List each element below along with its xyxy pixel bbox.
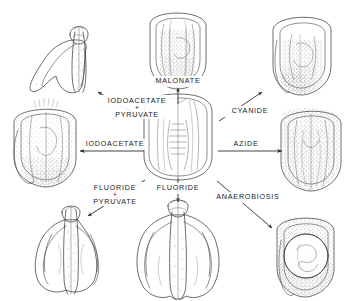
embryo-iodoacetate-pyruvate bbox=[30, 27, 88, 93]
label-fluoride: FLUORIDE bbox=[150, 183, 206, 194]
label-iodoacetate-pyruvate-line2: PYRUVATE bbox=[115, 110, 159, 119]
label-azide: AZIDE bbox=[228, 139, 264, 150]
label-azide-text: AZIDE bbox=[234, 139, 259, 148]
embryo-cyanide bbox=[273, 17, 331, 96]
label-iodoacetate-text: IODOACETATE bbox=[86, 139, 145, 148]
embryo-anaerobiosis bbox=[277, 216, 336, 298]
label-fluoride-pyruvate-line2: PYRUVATE bbox=[93, 197, 137, 206]
label-iodoacetate: IODOACETATE bbox=[84, 139, 146, 150]
label-anaerobiosis-text: ANAEROBIOSIS bbox=[216, 192, 279, 201]
arrow-anaerobiosis bbox=[217, 181, 272, 228]
label-cyanide-text: CYANIDE bbox=[232, 106, 269, 115]
figure-root: IODOACETATE + PYRUVATE MALONATE CYANIDE … bbox=[0, 0, 357, 301]
embryo-iodoacetate bbox=[14, 98, 76, 190]
label-iodoacetate-pyruvate: IODOACETATE + PYRUVATE bbox=[97, 95, 177, 119]
embryo-fluoride bbox=[137, 200, 219, 300]
label-malonate: MALONATE bbox=[145, 76, 211, 87]
label-malonate-text: MALONATE bbox=[155, 76, 200, 85]
label-fluoride-text: FLUORIDE bbox=[157, 183, 199, 192]
label-fluoride-pyruvate: FLUORIDE + PYRUVATE bbox=[82, 182, 148, 206]
embryo-diagram: IODOACETATE + PYRUVATE MALONATE CYANIDE … bbox=[0, 0, 357, 301]
embryo-azide bbox=[281, 108, 342, 192]
label-anaerobiosis: ANAEROBIOSIS bbox=[208, 192, 288, 203]
embryo-fluoride-pyruvate bbox=[35, 206, 98, 294]
label-cyanide: CYANIDE bbox=[222, 106, 278, 117]
